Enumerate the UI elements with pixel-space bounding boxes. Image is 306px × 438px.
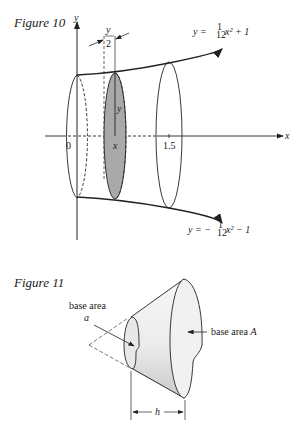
svg-text:x² − 1: x² − 1 — [225, 224, 250, 235]
y-axis-label: y — [73, 12, 79, 23]
height-label: h — [155, 406, 160, 417]
figure-11-caption: Figure 11 — [13, 275, 64, 290]
end-disk-front — [67, 75, 77, 198]
figures-canvas: Figure 10 y x y y 2 0 x 1.5 y = 1 12 x² … — [0, 0, 306, 438]
tick-0: 0 — [66, 140, 71, 151]
small-base-label: base area — [69, 300, 106, 311]
x-axis-label: x — [284, 130, 290, 141]
end-disk-back — [77, 75, 87, 198]
small-base-var: a — [84, 312, 89, 323]
apex-dash-top — [89, 318, 128, 345]
svg-text:x² + 1: x² + 1 — [224, 26, 249, 37]
svg-text:y = −: y = − — [187, 224, 211, 235]
upper-curve-label: y = 1 12 x² + 1 — [192, 21, 249, 40]
svg-text:y =: y = — [192, 26, 207, 37]
tick-1.5: 1.5 — [163, 140, 176, 151]
thickness-denominator: 2 — [106, 38, 111, 49]
upper-curve — [77, 49, 222, 75]
radius-label: y — [116, 103, 122, 114]
thickness-arrow-right — [116, 33, 129, 39]
large-base-label: base area A — [211, 326, 257, 337]
figure-10-caption: Figure 10 — [13, 15, 66, 30]
thickness-numerator: y — [105, 24, 111, 35]
large-base — [170, 279, 202, 398]
lower-curve — [77, 197, 222, 223]
lower-curve-label: y = − 1 12 x² − 1 — [187, 219, 250, 238]
thickness-arrow-left — [89, 40, 103, 46]
tick-x: x — [112, 140, 118, 151]
